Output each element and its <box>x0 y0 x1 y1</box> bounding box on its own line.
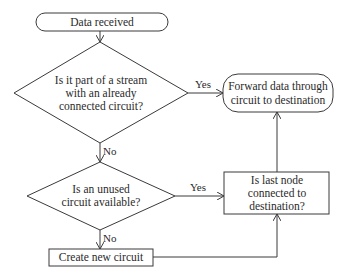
node-label: Is last node <box>251 174 303 186</box>
node-forward-data: Forward data through circuit to destinat… <box>223 74 333 112</box>
edge-label-no: No <box>103 145 117 157</box>
node-label: with an already <box>66 87 137 100</box>
edge-unused-no: No <box>100 230 117 249</box>
node-label: destination? <box>249 200 305 212</box>
edge-label-no: No <box>103 232 117 244</box>
flowchart: Yes No Yes No Data received Is it part o… <box>0 0 345 279</box>
node-data-received: Data received <box>36 13 168 31</box>
node-decision-stream: Is it part of a stream with an already c… <box>14 42 188 143</box>
node-label: Is an unused <box>72 183 130 195</box>
node-label: circuit available? <box>62 196 141 208</box>
node-label: Forward data through <box>228 80 328 93</box>
edge-stream-no: No <box>100 143 117 162</box>
edge-create-to-last-node <box>153 214 277 257</box>
node-label: Is it part of a stream <box>55 74 147 87</box>
node-label: connected circuit? <box>59 100 143 112</box>
node-last-node-connected: Is last node connected to destination? <box>224 172 329 214</box>
node-label: connected to <box>248 187 307 199</box>
node-label: Data received <box>70 16 134 28</box>
edge-unused-yes: Yes <box>175 181 224 196</box>
node-label: circuit to destination <box>231 94 326 106</box>
edge-stream-yes: Yes <box>188 78 223 93</box>
node-create-new-circuit: Create new circuit <box>49 249 153 266</box>
node-decision-unused: Is an unused circuit available? <box>27 162 175 230</box>
edge-label-yes: Yes <box>190 181 206 193</box>
edge-label-yes: Yes <box>195 78 211 90</box>
node-label: Create new circuit <box>59 251 144 263</box>
